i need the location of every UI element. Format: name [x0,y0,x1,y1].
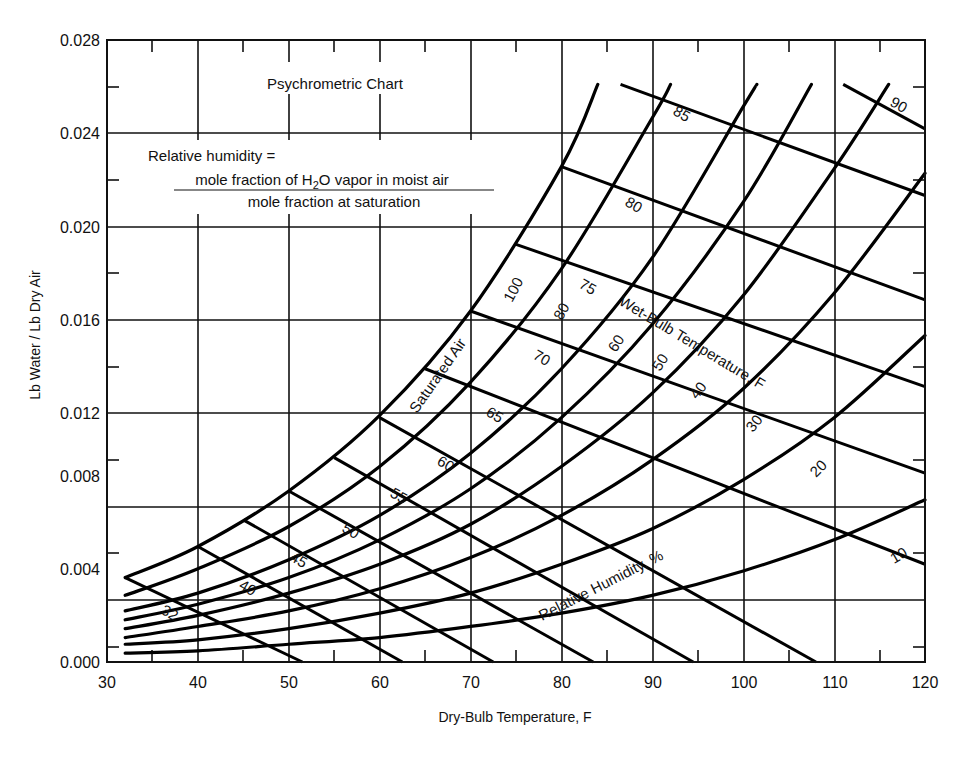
svg-text:20: 20 [806,456,830,480]
svg-text:40: 40 [686,378,710,402]
x-tick-label: 50 [280,674,298,691]
svg-text:60: 60 [604,331,627,354]
y-tick-label: 0.020 [60,219,100,236]
x-tick-label: 40 [189,674,207,691]
x-tick-label: 80 [553,674,571,691]
y-tick-label: 0.016 [60,312,100,329]
x-tick-label: 100 [731,674,758,691]
x-tick-label: 70 [462,674,480,691]
y-tick-label: 0.008 [60,468,100,485]
x-tick-labels: 30 40 50 60 70 80 90 100 110 120 [98,674,938,691]
definition-line1: Relative humidity = [148,147,275,164]
svg-text:65: 65 [484,403,507,426]
svg-text:10: 10 [887,544,910,567]
x-tick-label: 120 [912,674,939,691]
y-axis-label: Lb Water / Lb Dry Air [27,270,43,400]
svg-text:100: 100 [500,274,527,304]
wet-bulb-line-45 [243,520,493,662]
svg-text:50: 50 [648,350,671,373]
wet-bulb-line-50 [289,491,593,662]
svg-text:75: 75 [577,275,600,298]
y-tick-label: 0.000 [60,654,100,671]
svg-text:90: 90 [888,93,911,116]
x-tick-label: 110 [822,674,848,691]
svg-text:80: 80 [550,300,573,323]
y-tick-label: 0.028 [60,32,100,49]
grid [107,40,925,662]
x-tick-label: 60 [371,674,389,691]
y-tick-label: 0.024 [60,125,100,142]
y-tick-label: 0.012 [60,405,100,422]
chart-title: Psychrometric Chart [267,75,404,92]
y-tick-label: 0.004 [60,561,100,578]
x-axis-label: Dry-Bulb Temperature, F [438,709,591,725]
x-tick-label: 30 [98,674,116,691]
psychrometric-chart: 0.000 0.004 0.008 0.012 0.016 0.020 0.02… [0,0,954,778]
x-tick-label: 90 [644,674,662,691]
svg-text:55: 55 [388,484,411,507]
y-tick-labels: 0.000 0.004 0.008 0.012 0.016 0.020 0.02… [60,32,100,671]
svg-text:70: 70 [531,346,554,369]
definition-denominator: mole fraction at saturation [248,193,421,210]
svg-text:60: 60 [435,452,458,475]
saturated-air-label: Saturated Air [406,335,470,416]
